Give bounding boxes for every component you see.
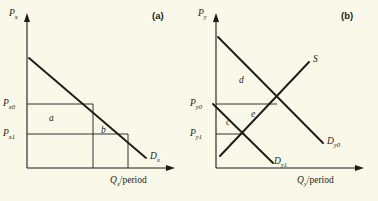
region-d: d [239, 76, 244, 86]
x-axis-a [27, 165, 175, 171]
price-label-px1: Px1 [3, 129, 15, 139]
curve-label-dy0: Dy0 [327, 137, 340, 147]
x-axis-b [216, 165, 364, 171]
panel-a-y-axis-label: Px [9, 9, 18, 19]
y-axis-a [24, 13, 30, 168]
panel-b-tag: (b) [341, 10, 353, 21]
curve-label-dy1: Dy1 [274, 157, 287, 167]
region-e: e [251, 110, 255, 120]
panel-a-x-axis-label: Qx/period [110, 176, 147, 186]
curve-label-dx: Dx [150, 152, 160, 162]
price-label-py0: Py0 [190, 99, 202, 109]
panel-b: (b) Py Qy/period Py0 Py1 c d e S Dy0 Dy1 [189, 0, 378, 201]
supply-curve-s [220, 62, 309, 156]
region-c: c [226, 118, 230, 128]
panel-a-tag: (a) [152, 10, 164, 21]
panel-b-x-axis-label: Qy/period [297, 176, 334, 186]
region-b: b [101, 126, 106, 136]
panel-a: (a) Px Qx/period Px0 Px1 a b Dx [0, 0, 189, 201]
price-label-px0: Px0 [3, 99, 15, 109]
figure-root: (a) Px Qx/period Px0 Px1 a b Dx [0, 0, 378, 201]
region-a: a [49, 114, 54, 124]
panel-b-y-axis-label: Py [198, 9, 207, 19]
demand-curve-dy0 [218, 37, 323, 143]
panel-b-graphic [189, 0, 378, 201]
panel-a-graphic [0, 0, 189, 201]
curve-label-s: S [313, 55, 318, 65]
price-label-py1: Py1 [190, 129, 202, 139]
